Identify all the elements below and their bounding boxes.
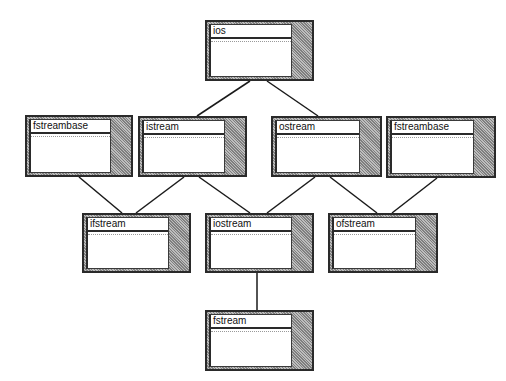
class-members [211, 41, 291, 76]
class-members [211, 234, 291, 268]
class-panel: ios [209, 24, 292, 77]
edge-ios-istream [197, 81, 250, 116]
class-panel: istream [142, 120, 225, 173]
edge-fstreambase-ifstream [79, 177, 122, 213]
class-panel: ifstream [86, 217, 169, 269]
class-node-istream[interactable]: istream [138, 116, 247, 177]
class-name: iostream [211, 218, 291, 232]
class-node-iostream[interactable]: iostream [205, 213, 314, 273]
edge-ostream-ofstream [330, 177, 377, 213]
class-node-ostream[interactable]: ostream [271, 116, 382, 177]
class-panel: ofstream [332, 217, 416, 269]
edge-ostream-iostream [267, 177, 315, 213]
class-name: istream [144, 121, 224, 135]
class-node-fstream[interactable]: fstream [205, 310, 314, 371]
class-name: fstreambase [392, 121, 473, 135]
class-name: ifstream [88, 218, 168, 232]
class-members [31, 136, 110, 172]
class-node-ofstream[interactable]: ofstream [328, 213, 438, 273]
class-panel: ostream [275, 120, 360, 173]
class-members [88, 234, 168, 268]
class-node-fstreambase-left[interactable]: fstreambase [25, 115, 133, 177]
class-name: ofstream [334, 218, 415, 232]
class-name: fstreambase [31, 120, 110, 134]
class-members [334, 234, 415, 268]
class-name: fstream [211, 315, 291, 329]
edge-istream-ifstream [136, 177, 184, 213]
class-panel: fstream [209, 314, 292, 367]
edge-istream-iostream [199, 177, 250, 213]
class-members [392, 137, 473, 173]
class-node-ifstream[interactable]: ifstream [82, 213, 191, 273]
class-members [277, 137, 359, 172]
edge-fstreambase-ofstream [392, 178, 437, 213]
class-members [211, 331, 291, 366]
class-name: ios [211, 25, 291, 39]
class-members [144, 137, 224, 172]
class-node-ios[interactable]: ios [205, 20, 314, 81]
class-name: ostream [277, 121, 359, 135]
class-node-fstreambase-right[interactable]: fstreambase [386, 116, 496, 178]
class-panel: fstreambase [390, 120, 474, 174]
class-panel: fstreambase [29, 119, 111, 173]
edge-ios-ostream [267, 81, 318, 116]
class-panel: iostream [209, 217, 292, 269]
